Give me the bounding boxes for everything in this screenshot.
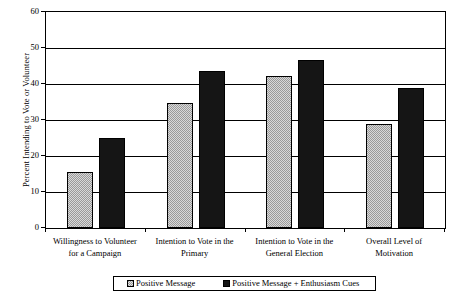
bar [167,103,193,228]
x-tick-mark [344,228,345,232]
x-category-label-line: Motivation [338,248,450,260]
plot-area [45,11,446,229]
y-tick-label: 20 [13,151,39,160]
bar [366,124,392,228]
legend-label: Positive Message + Enthusiasm Cues [232,279,359,288]
x-category-label: Overall Level ofMotivation [338,236,450,259]
gridline [46,48,445,49]
x-category-label-line: Primary [139,248,251,260]
x-tick-mark [145,228,146,232]
x-tick-mark [45,228,46,232]
x-tick-mark [444,228,445,232]
bar [99,138,125,228]
x-category-label-line: Intention to Vote in the [239,236,351,248]
legend-entry-positive-message: Positive Message [127,279,195,288]
x-category-label-line: Overall Level of [338,236,450,248]
x-category-label-line: General Election [239,248,351,260]
x-category-label: Willingness to Volunteerfor a Campaign [39,236,151,259]
bar [199,71,225,228]
bar [266,76,292,228]
x-tick-mark [245,228,246,232]
y-tick-label: 60 [13,7,39,16]
legend-entry-positive-message-enthusiasm-cues: Positive Message + Enthusiasm Cues [223,279,359,288]
x-category-label-line: for a Campaign [39,248,151,260]
y-tick-label: 10 [13,187,39,196]
bar [67,172,93,228]
gridline [46,84,445,85]
y-tick-label: 50 [13,43,39,52]
bar [398,88,424,228]
x-category-label-line: Intention to Vote in the [139,236,251,248]
y-tick-label: 40 [13,79,39,88]
legend-label: Positive Message [136,279,195,288]
bar [298,60,324,228]
y-tick-label: 0 [13,223,39,232]
gridline [46,120,445,121]
bar-chart: Percent Intending to Vote or Volunteer 0… [0,0,452,296]
y-tick-label: 30 [13,115,39,124]
x-category-label: Intention to Vote in thePrimary [139,236,251,259]
legend-swatch-icon [127,280,134,287]
x-category-label-line: Willingness to Volunteer [39,236,151,248]
legend-swatch-icon [223,280,230,287]
x-category-label: Intention to Vote in theGeneral Election [239,236,351,259]
chart-legend: Positive Message Positive Message + Enth… [113,276,376,291]
